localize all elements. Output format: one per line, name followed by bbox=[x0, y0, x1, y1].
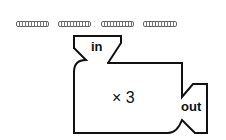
output-label: out bbox=[181, 100, 201, 113]
function-machine bbox=[0, 0, 226, 140]
input-label: in bbox=[91, 40, 103, 53]
rule-label: × 3 bbox=[112, 90, 135, 106]
machine-body-outline bbox=[74, 48, 207, 133]
